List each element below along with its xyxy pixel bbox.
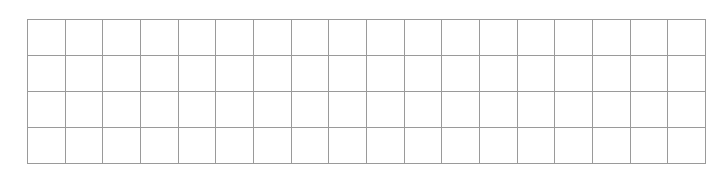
grid-cell: [668, 20, 706, 56]
grid-cell: [141, 92, 179, 128]
grid-cell: [292, 92, 330, 128]
grid-cell: [442, 20, 480, 56]
grid-cell: [668, 128, 706, 164]
grid-cell: [28, 56, 66, 92]
grid-cell: [216, 20, 254, 56]
grid-cell: [66, 56, 104, 92]
grid-cell: [480, 20, 518, 56]
grid-cell: [593, 92, 631, 128]
grid-cell: [66, 92, 104, 128]
grid-cell: [367, 128, 405, 164]
grid-cell: [28, 92, 66, 128]
grid-cell: [329, 92, 367, 128]
grid-cell: [442, 56, 480, 92]
grid-cell: [555, 20, 593, 56]
grid-cell: [518, 56, 556, 92]
grid-cell: [442, 128, 480, 164]
grid-cell: [405, 56, 443, 92]
grid-cell: [216, 92, 254, 128]
grid-cell: [329, 20, 367, 56]
grid-cell: [66, 20, 104, 56]
grid-cell: [179, 20, 217, 56]
grid-cell: [329, 128, 367, 164]
grid-cell: [141, 56, 179, 92]
grid-cell: [405, 128, 443, 164]
grid-cell: [103, 20, 141, 56]
grid-cell: [480, 128, 518, 164]
grid-cell: [405, 20, 443, 56]
grid-cell: [593, 20, 631, 56]
grid-cell: [555, 92, 593, 128]
grid-cell: [103, 128, 141, 164]
grid-cell: [593, 56, 631, 92]
grid-cell: [405, 92, 443, 128]
grid-cell: [631, 128, 669, 164]
grid-cell: [216, 56, 254, 92]
grid-cell: [103, 92, 141, 128]
grid-cell: [593, 128, 631, 164]
grid-cell: [179, 56, 217, 92]
grid-cell: [66, 128, 104, 164]
empty-grid-container: [27, 19, 706, 164]
grid-cell: [367, 92, 405, 128]
grid-cell: [555, 128, 593, 164]
grid-cell: [480, 56, 518, 92]
grid-cell: [631, 92, 669, 128]
grid-cell: [292, 20, 330, 56]
grid-cell: [668, 92, 706, 128]
grid-cell: [555, 56, 593, 92]
grid-cell: [442, 92, 480, 128]
grid-cell: [254, 92, 292, 128]
grid-cell: [292, 56, 330, 92]
grid-cell: [179, 92, 217, 128]
grid-cell: [518, 20, 556, 56]
grid-cell: [631, 56, 669, 92]
grid-cell: [631, 20, 669, 56]
grid-cell: [254, 56, 292, 92]
grid-cell: [179, 128, 217, 164]
grid-cell: [329, 56, 367, 92]
grid-cell: [216, 128, 254, 164]
grid-cell: [103, 56, 141, 92]
grid-cell: [668, 56, 706, 92]
grid-cell: [141, 128, 179, 164]
grid-cell: [141, 20, 179, 56]
grid-cell: [367, 20, 405, 56]
empty-grid: [27, 19, 706, 164]
grid-cell: [292, 128, 330, 164]
grid-cell: [28, 20, 66, 56]
grid-cell: [480, 92, 518, 128]
grid-cell: [28, 128, 66, 164]
grid-cell: [367, 56, 405, 92]
grid-cell: [254, 128, 292, 164]
grid-cell: [518, 92, 556, 128]
grid-cell: [518, 128, 556, 164]
grid-cell: [254, 20, 292, 56]
